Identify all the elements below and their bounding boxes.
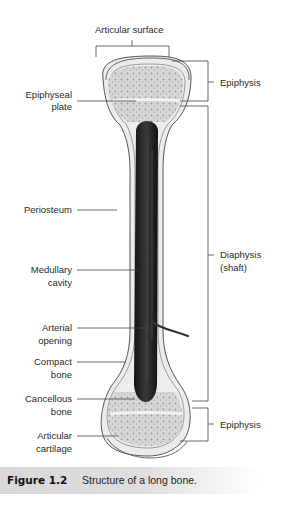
label-medullary-1: Medullary xyxy=(31,264,72,276)
label-epiphyseal-plate-2: plate xyxy=(51,101,72,113)
figure-caption: Structure of a long bone. xyxy=(82,474,197,486)
label-articular-surface: Articular surface xyxy=(95,24,164,36)
label-epiphyseal-plate-1: Epiphyseal xyxy=(26,89,72,101)
label-diaphysis-1: Diaphysis xyxy=(220,249,261,261)
label-cancellous-2: bone xyxy=(51,406,72,418)
label-diaphysis-2: (shaft) xyxy=(220,262,247,274)
label-arterial-1: Arterial xyxy=(42,322,72,334)
figure-number: Figure 1.2 xyxy=(7,474,67,486)
label-medullary-2: cavity xyxy=(48,277,72,289)
label-epiphysis-bottom: Epiphysis xyxy=(220,419,261,431)
label-cancellous-1: Cancellous xyxy=(25,393,72,405)
label-epiphysis-top: Epiphysis xyxy=(220,77,261,89)
label-periosteum: Periosteum xyxy=(24,204,72,216)
label-compact-2: bone xyxy=(51,369,72,381)
label-articular-cartilage-1: Articular xyxy=(37,430,72,442)
label-arterial-2: opening xyxy=(38,335,72,347)
label-articular-cartilage-2: cartilage xyxy=(36,443,72,455)
label-compact-1: Compact xyxy=(34,356,72,368)
figure-caption-bar: Figure 1.2 Structure of a long bone. xyxy=(0,467,260,494)
medullary-cavity xyxy=(134,121,158,402)
